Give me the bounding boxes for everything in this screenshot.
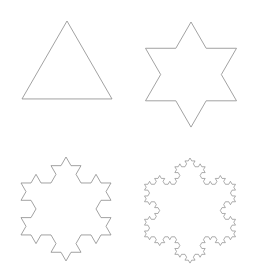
koch-iteration-0: [22, 21, 112, 99]
koch-iteration-3: [145, 158, 236, 263]
koch-iteration-2: [21, 157, 111, 261]
koch-iteration-1: [146, 22, 237, 127]
koch-snowflake-diagram: [0, 0, 256, 279]
